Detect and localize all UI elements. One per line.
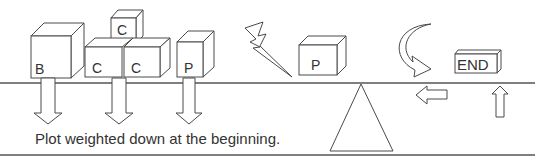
- down-arrow-icon: [105, 78, 133, 124]
- box-c-left-label: C: [92, 60, 102, 76]
- end-label: END: [457, 56, 489, 73]
- box-c-right: C: [124, 38, 170, 77]
- box-p-left-label: P: [184, 60, 193, 76]
- plot-weight-diagram: B C C C P: [0, 0, 535, 162]
- left-arrow-icon: [416, 86, 447, 104]
- box-c-right-label: C: [131, 60, 141, 76]
- box-b: B: [31, 23, 84, 78]
- up-arrow-icon: [492, 86, 508, 117]
- lightning-icon: [245, 22, 292, 77]
- curved-arrow-icon: [399, 24, 431, 77]
- end-box: END: [455, 50, 501, 73]
- down-arrow-icon: [34, 78, 62, 124]
- fulcrum-triangle-icon: [330, 84, 393, 151]
- box-p-right-label: P: [311, 57, 320, 73]
- down-arrow-icon: [176, 78, 202, 124]
- caption: Plot weighted down at the beginning.: [35, 130, 280, 147]
- box-p-left: P: [177, 31, 214, 77]
- box-c-top-label: C: [117, 22, 127, 38]
- box-p-right: P: [299, 36, 346, 75]
- box-b-label: B: [35, 61, 44, 77]
